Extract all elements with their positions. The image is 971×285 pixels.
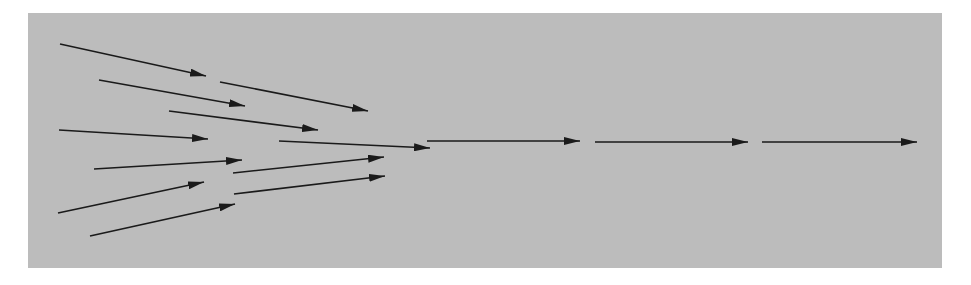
arrow-a4 — [59, 130, 208, 139]
arrow-a3 — [169, 111, 318, 130]
arrow-a10 — [233, 157, 384, 173]
arrow-a8 — [220, 82, 368, 111]
arrow-a11 — [234, 176, 385, 194]
arrow-a7 — [90, 204, 235, 236]
arrow-a1 — [60, 44, 206, 76]
arrow-diagram — [0, 0, 971, 285]
arrow-a9 — [279, 141, 430, 148]
arrow-a6 — [58, 182, 204, 213]
arrow-a5 — [94, 160, 242, 169]
arrow-a2 — [99, 80, 245, 106]
